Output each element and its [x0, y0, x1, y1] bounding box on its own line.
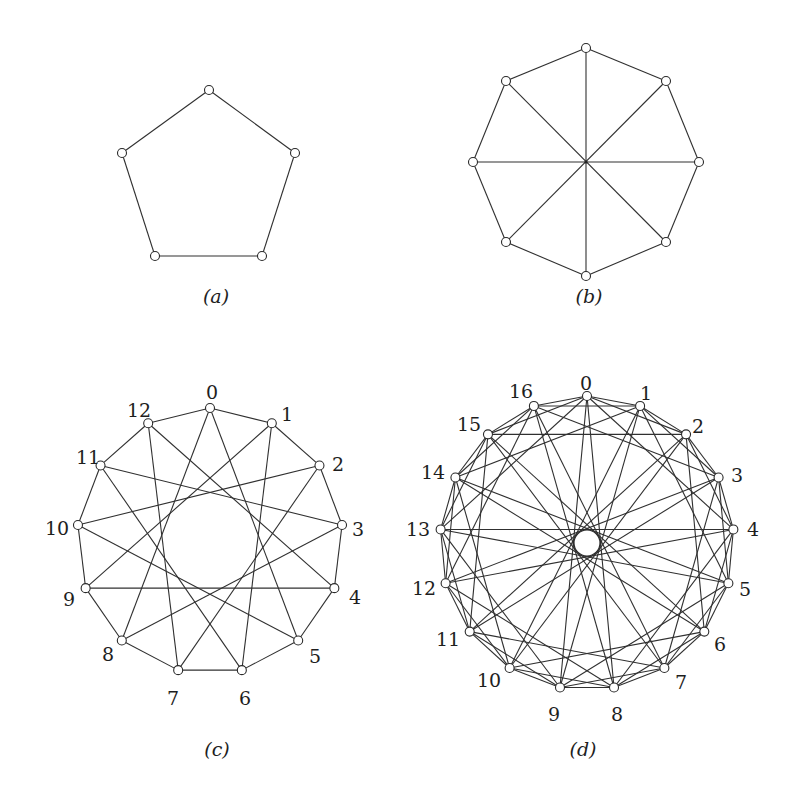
- graph-edge: [122, 153, 155, 256]
- graph-vertex: [451, 473, 460, 482]
- panel-b-octagon-graph: (b): [469, 44, 704, 308]
- vertex-label: 5: [739, 578, 751, 600]
- graph-edge: [664, 632, 704, 668]
- vertex-label: 10: [45, 517, 69, 539]
- graph-edge: [122, 641, 178, 671]
- graph-vertex: [682, 430, 691, 439]
- caption-a: (a): [203, 285, 229, 307]
- graph-edge: [78, 525, 298, 641]
- graph-vertex: [724, 579, 733, 588]
- graph-vertex: [330, 584, 339, 593]
- graph-edge: [470, 434, 488, 631]
- graph-edge: [78, 465, 319, 525]
- vertex-label: 8: [102, 643, 114, 665]
- graph-vertex: [237, 666, 246, 675]
- vertex-label: 7: [167, 687, 179, 709]
- vertex-label: 3: [731, 464, 743, 486]
- vertex-label: 4: [747, 518, 759, 540]
- graph-edge: [506, 48, 586, 81]
- graph-vertex: [294, 636, 303, 645]
- graph-edge: [148, 408, 210, 423]
- graph-vertex: [582, 44, 591, 53]
- graph-edge: [78, 525, 86, 588]
- vertex-label: 5: [309, 645, 321, 667]
- graph-vertex: [206, 404, 215, 413]
- graph-edge: [470, 632, 510, 668]
- graph-vertex: [582, 272, 591, 281]
- vertex-label: 11: [76, 446, 100, 468]
- graph-vertex: [465, 627, 474, 636]
- graph-edge: [86, 423, 272, 588]
- vertex-label: 8: [611, 703, 623, 725]
- graph-edge: [586, 48, 666, 81]
- graph-edge: [586, 242, 666, 276]
- caption-d: (d): [570, 738, 597, 760]
- vertex-label: 13: [406, 518, 430, 540]
- panel-a-pentagon-graph: (a): [118, 86, 300, 308]
- graph-edge: [446, 583, 510, 668]
- graph-edge: [101, 423, 149, 465]
- graph-edge: [148, 423, 334, 588]
- center-hole: [574, 530, 600, 556]
- vertex-label: 0: [580, 372, 592, 394]
- graph-vertex: [483, 430, 492, 439]
- graph-edge: [686, 434, 704, 631]
- graph-vertex: [338, 520, 347, 529]
- graph-edge: [587, 396, 733, 529]
- graph-vertex: [555, 683, 564, 692]
- graph-edge: [242, 423, 272, 670]
- graph-vertex: [469, 158, 478, 167]
- graph-vertex: [258, 252, 267, 261]
- panel-d-paley-17-graph: 012345678910111213141516 (d): [406, 372, 759, 760]
- graph-edge: [122, 90, 209, 153]
- graph-vertex: [205, 86, 214, 95]
- vertex-label: 9: [63, 588, 75, 610]
- graph-edge: [122, 525, 342, 641]
- graph-edge: [101, 465, 342, 525]
- caption-c: (c): [204, 738, 229, 760]
- graph-edge: [148, 423, 178, 670]
- panel-c-circulant-13-graph: 0123456789101112 (c): [45, 381, 364, 760]
- vertex-label: 9: [548, 703, 560, 725]
- vertex-label: 2: [332, 453, 344, 475]
- vertex-label: 7: [675, 671, 687, 693]
- vertex-label: 12: [127, 399, 151, 421]
- graph-vertex: [502, 77, 511, 86]
- graph-vertex: [714, 473, 723, 482]
- graph-vertex: [151, 252, 160, 261]
- graph-vertex: [662, 238, 671, 247]
- graph-vertex: [700, 627, 709, 636]
- graph-vertex: [81, 584, 90, 593]
- vertex-label: 6: [239, 687, 251, 709]
- graph-vertex: [118, 149, 127, 158]
- graph-vertex: [610, 683, 619, 692]
- vertex-label: 16: [509, 380, 533, 402]
- graph-figure: (a) (b) 0123456789101112 (c) 01234567891…: [0, 0, 799, 806]
- graph-edge: [587, 396, 686, 434]
- center-point: [584, 160, 587, 163]
- graph-vertex: [695, 158, 704, 167]
- graph-vertex: [315, 461, 324, 470]
- graph-vertex: [436, 525, 445, 534]
- graph-edge: [666, 162, 699, 242]
- graph-vertex: [662, 77, 671, 86]
- vertex-label: 2: [692, 415, 704, 437]
- graph-vertex: [441, 579, 450, 588]
- graph-vertex: [505, 663, 514, 672]
- vertex-label: 6: [714, 633, 726, 655]
- vertex-label: 15: [457, 413, 481, 435]
- graph-edge: [640, 406, 718, 478]
- caption-b: (b): [576, 285, 603, 307]
- graph-edge: [272, 423, 320, 465]
- graph-edge: [242, 641, 298, 671]
- graph-edge: [209, 90, 295, 153]
- graph-vertex: [660, 663, 669, 672]
- graph-edge: [473, 81, 506, 162]
- graph-edge: [86, 588, 122, 640]
- vertex-label: 3: [352, 518, 364, 540]
- vertex-label: 12: [412, 577, 436, 599]
- vertex-label: 4: [349, 586, 361, 608]
- vertex-label: 14: [421, 461, 445, 483]
- graph-edge: [334, 525, 342, 588]
- graph-edge: [664, 583, 728, 668]
